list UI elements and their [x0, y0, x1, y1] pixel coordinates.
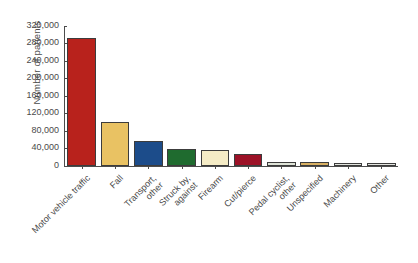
- bar-slot: [198, 26, 231, 166]
- bar-slot: [132, 26, 165, 166]
- y-tick-label: 240,000: [26, 55, 59, 65]
- bar-slot: [232, 26, 265, 166]
- x-tick-mark: [348, 166, 349, 169]
- x-tick-mark: [148, 166, 149, 169]
- x-tick-mark: [82, 166, 83, 169]
- y-tick-label: 320,000: [26, 20, 59, 30]
- bar-slot: [265, 26, 298, 166]
- bar[interactable]: [67, 38, 96, 166]
- x-tick-mark: [115, 166, 116, 169]
- y-tick-label: 200,000: [26, 72, 59, 82]
- x-tick-mark: [248, 166, 249, 169]
- bar-slot: [298, 26, 331, 166]
- bar-slot: [331, 26, 364, 166]
- bar-slot: [65, 26, 98, 166]
- plot-area: 040,00080,000120,000160,000200,000240,00…: [64, 26, 398, 166]
- bar[interactable]: [134, 141, 163, 166]
- bar-slot: [98, 26, 131, 166]
- x-tick-mark: [381, 166, 382, 169]
- y-tick-label: 80,000: [31, 125, 59, 135]
- bar[interactable]: [101, 122, 130, 166]
- y-tick-label: 0: [54, 160, 59, 170]
- bar[interactable]: [167, 149, 196, 167]
- y-tick-label: 120,000: [26, 107, 59, 117]
- y-tick-label: 280,000: [26, 37, 59, 47]
- bar-series: [65, 26, 398, 166]
- bar[interactable]: [234, 154, 263, 166]
- bar-slot: [165, 26, 198, 166]
- x-tick-mark: [215, 166, 216, 169]
- bar[interactable]: [201, 150, 230, 166]
- y-tick-label: 160,000: [26, 90, 59, 100]
- bar-slot: [365, 26, 398, 166]
- bar-chart-figure: Number of patients 040,00080,000120,0001…: [0, 0, 418, 263]
- x-tick-mark: [281, 166, 282, 169]
- x-tick-mark: [315, 166, 316, 169]
- x-tick-mark: [182, 166, 183, 169]
- y-tick-label: 40,000: [31, 142, 59, 152]
